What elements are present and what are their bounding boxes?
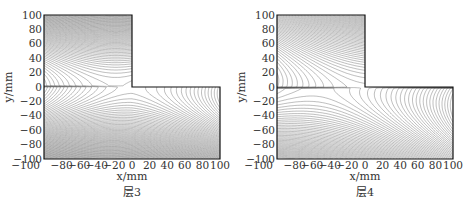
y-tick-label: 0 xyxy=(35,81,42,93)
y-tick-label: 80 xyxy=(29,23,42,35)
x-tick-label: −100 xyxy=(11,159,40,171)
x-axis-label: x/mm xyxy=(350,170,381,183)
y-tick-label: 60 xyxy=(262,37,275,49)
x-tick-label: 80 xyxy=(429,159,442,171)
y-tick-label: 40 xyxy=(262,52,275,64)
panel-caption: 层4 xyxy=(356,186,374,199)
contour-panel-layer4: 100806040200−20−40−60−80−100−100−80−60−4… xyxy=(235,0,470,206)
contour-panel-layer3: 100806040200−20−40−60−80−100−100−80−60−4… xyxy=(0,0,235,206)
y-tick-label: −60 xyxy=(253,124,275,136)
contour-plot-layer4: 100806040200−20−40−60−80−100−100−80−60−4… xyxy=(235,0,470,206)
y-tick-label: 0 xyxy=(268,81,275,93)
x-tick-label: 40 xyxy=(161,159,174,171)
y-tick-label: 40 xyxy=(29,52,42,64)
y-tick-label: −60 xyxy=(20,124,42,136)
panel-caption: 层3 xyxy=(123,186,141,199)
x-tick-label: 80 xyxy=(196,159,209,171)
x-tick-label: 60 xyxy=(411,159,424,171)
y-tick-label: −40 xyxy=(253,109,275,121)
y-tick-label: 100 xyxy=(22,9,42,21)
y-tick-label: −20 xyxy=(253,95,275,107)
x-tick-label: 40 xyxy=(394,159,407,171)
x-tick-label: −100 xyxy=(244,159,273,171)
y-tick-label: −20 xyxy=(20,95,42,107)
x-tick-label: 60 xyxy=(178,159,191,171)
contour-plot-layer3: 100806040200−20−40−60−80−100−100−80−60−4… xyxy=(0,0,235,206)
y-tick-label: 20 xyxy=(29,66,42,78)
x-tick-label: 100 xyxy=(443,159,463,171)
y-axis-label: y/mm xyxy=(2,71,15,103)
y-tick-label: −40 xyxy=(20,109,42,121)
y-tick-label: −80 xyxy=(253,138,275,150)
y-tick-label: 60 xyxy=(29,37,42,49)
y-tick-label: 100 xyxy=(255,9,275,21)
x-axis-label: x/mm xyxy=(117,170,148,183)
y-tick-label: 20 xyxy=(262,66,275,78)
x-tick-label: 100 xyxy=(210,159,230,171)
y-axis-label: y/mm xyxy=(235,71,248,103)
y-tick-label: 80 xyxy=(262,23,275,35)
y-tick-label: −80 xyxy=(20,138,42,150)
